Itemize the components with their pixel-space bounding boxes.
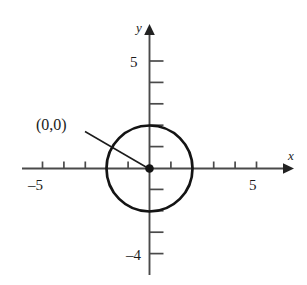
graph-canvas: (0,0) –5 5 5 –4 y x [0, 0, 307, 285]
x-axis-arrow-icon [283, 163, 294, 174]
y-axis-label: y [134, 20, 142, 35]
x-axis-label: x [287, 148, 294, 163]
y-axis-ticks [150, 61, 164, 254]
origin-leader-line [85, 132, 146, 168]
y-axis-arrow-icon [144, 24, 155, 35]
y-axis-bottom-tick-label: –4 [125, 247, 142, 263]
origin-label: (0,0) [36, 116, 67, 134]
y-axis-top-tick-label: 5 [130, 54, 138, 70]
x-axis-right-tick-label: 5 [249, 177, 257, 193]
x-axis-left-tick-label: –5 [27, 177, 43, 193]
origin-point-marker [145, 164, 154, 173]
coordinate-plane-figure: (0,0) –5 5 5 –4 y x [0, 0, 307, 285]
